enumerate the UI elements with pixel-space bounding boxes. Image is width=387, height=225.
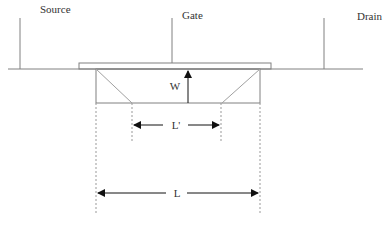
length-label: L xyxy=(174,187,181,199)
gate-oxide xyxy=(79,63,271,69)
drain-label: Drain xyxy=(357,10,383,22)
drain-diffusion-edge xyxy=(222,69,260,103)
source-label: Source xyxy=(40,3,71,15)
effective-length-label: L' xyxy=(172,119,181,131)
width-label: W xyxy=(170,80,181,92)
mosfet-channel-diagram: Source Gate Drain W L' L xyxy=(0,0,387,225)
source-diffusion-edge xyxy=(96,69,132,103)
gate-label: Gate xyxy=(182,9,203,21)
